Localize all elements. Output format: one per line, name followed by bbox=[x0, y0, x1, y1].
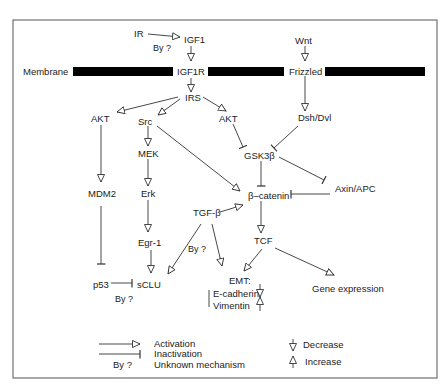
node-frizzled: Frizzled bbox=[289, 66, 322, 77]
membrane-bar-right bbox=[325, 67, 425, 76]
node-erk: Erk bbox=[141, 188, 156, 199]
legend-decrease-label: Decrease bbox=[303, 339, 344, 350]
node-e-cadherin: E-cadherin bbox=[213, 288, 259, 299]
node-mek: MEK bbox=[138, 148, 159, 159]
node-gsk3b: GSK3β bbox=[244, 150, 275, 161]
node-egr1: Egr-1 bbox=[138, 237, 161, 248]
node-akt-right: AKT bbox=[219, 113, 238, 124]
node-mdm2: MDM2 bbox=[88, 188, 116, 199]
node-sclu: sCLU bbox=[137, 279, 161, 290]
node-vimentin: Vimentin bbox=[213, 300, 250, 311]
node-igf1: IGF1 bbox=[184, 34, 205, 45]
node-wnt: Wnt bbox=[295, 35, 312, 46]
membrane-bar-left bbox=[73, 67, 173, 76]
pathway-diagram: IR IGF1 By ? Membrane IGF1R Wnt Frizzled… bbox=[0, 0, 448, 389]
legend-by-unknown: By ? bbox=[113, 359, 132, 370]
node-dsh-dvl: Dsh/Dvl bbox=[298, 112, 331, 123]
node-akt-left: AKT bbox=[91, 113, 110, 124]
by-unknown-ir: By ? bbox=[153, 43, 171, 53]
node-gene-expression: Gene expression bbox=[312, 283, 384, 294]
node-irs: IRS bbox=[185, 92, 201, 103]
node-tcf: TCF bbox=[254, 235, 273, 246]
legend-inactivation-label: Inactivation bbox=[154, 348, 202, 359]
legend-unknown-label: Unknown mechanism bbox=[154, 359, 245, 370]
node-igf1r: IGF1R bbox=[177, 66, 205, 77]
membrane-bar-middle bbox=[208, 67, 284, 76]
node-src: Src bbox=[138, 116, 153, 127]
node-emt: EMT: bbox=[229, 275, 251, 286]
node-p53: p53 bbox=[93, 279, 109, 290]
by-unknown-p53: By ? bbox=[115, 294, 133, 304]
node-beta-catenin: β–catenin bbox=[248, 190, 289, 201]
membrane-label: Membrane bbox=[23, 66, 68, 77]
legend-increase-label: Increase bbox=[305, 356, 341, 367]
node-axin-apc: Axin/APC bbox=[335, 183, 376, 194]
node-tgf-beta: TGF-β bbox=[193, 207, 221, 218]
node-ir: IR bbox=[134, 28, 144, 39]
by-unknown-tgfb: By ? bbox=[188, 244, 206, 254]
